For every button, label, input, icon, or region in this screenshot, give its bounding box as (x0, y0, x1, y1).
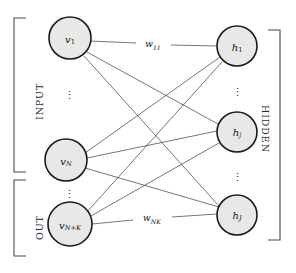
group-label-out: OUT (34, 215, 45, 240)
diagram-canvas: v1 vN vN+K h1 (0, 0, 296, 273)
edge-vNK-hj (89, 143, 219, 217)
visible-ellipsis-lower: ⋮ (64, 188, 75, 201)
group-label-hidden: HIDDEN (260, 105, 271, 153)
bracket-input (14, 18, 26, 172)
edge-vN-hJ (85, 168, 219, 207)
visible-layer: v1 vN vN+K (45, 17, 92, 246)
node-hJ[interactable]: hJ (217, 195, 257, 235)
hidden-ellipsis-upper: ⋮ (232, 86, 243, 99)
node-vN[interactable]: vN (45, 139, 87, 181)
node-vNK[interactable]: vN+K (48, 202, 92, 246)
edge-v1-h1-right (171, 45, 217, 46)
hidden-layer: h1 hj hJ (217, 26, 257, 235)
node-v1[interactable]: v1 (49, 17, 91, 59)
edge-vNK-hJ-right (172, 214, 217, 217)
ellipsis-layer: ⋮ ⋮ ⋮ ⋮ (64, 86, 243, 201)
hidden-ellipsis-lower: ⋮ (232, 171, 243, 184)
edge-v1-h1-left (90, 41, 136, 43)
edge-vNK-hJ-left (92, 220, 133, 224)
edge-layer (84, 41, 222, 224)
visible-ellipsis-upper: ⋮ (64, 89, 75, 102)
edge-v1-hJ (84, 56, 219, 206)
edge-vN-h1 (85, 57, 220, 153)
node-h1[interactable]: h1 (217, 26, 257, 66)
bracket-out (14, 180, 26, 256)
group-label-input: INPUT (34, 83, 45, 120)
weight-label-wNK: wNK (143, 213, 161, 224)
node-hj[interactable]: hj (217, 112, 257, 152)
edge-vN-hj (87, 131, 217, 158)
weight-label-w11: w11 (145, 39, 161, 50)
